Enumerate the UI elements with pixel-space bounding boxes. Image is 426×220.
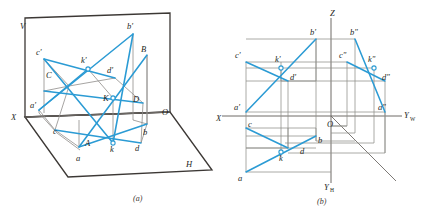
label-b-prime-a: b' [127,21,133,31]
caption-b: (b) [317,197,327,206]
label-b-prime-b: b' [310,27,316,37]
marker-k-prime-b [279,66,283,70]
label-k-prime-a: k' [81,55,87,65]
label-a-b: a [238,173,242,183]
label-b-double-prime-b: b" [350,27,358,37]
label-axis-X-b: X [215,113,222,123]
label-d-prime-b: d' [290,72,296,82]
label-B-a: B [141,44,146,54]
marker-k-prime [86,67,90,71]
label-origin-O-b: O [327,119,333,129]
figure-background [0,0,426,220]
label-axis-X-a: X [10,112,17,122]
label-axis-YW-subscript: W [410,116,416,122]
label-c-b: c [248,119,252,129]
label-A-a: A [84,138,91,148]
label-plane-H: H [185,159,193,169]
label-D-a: D [132,94,140,104]
label-c-prime-a: c' [36,47,42,57]
figure-canvas: V H X O a' b' c' d' k' A B C D K a b c d… [0,0,426,220]
label-b-b: b [318,135,322,145]
label-a-a: a [76,153,80,163]
label-a-double-prime-b: a" [378,102,386,112]
caption-a: (a) [133,194,143,203]
label-origin-O-a: O [162,107,168,117]
label-a-prime-b: a' [234,102,240,112]
label-k-a: k [110,144,114,154]
label-c-a: c [53,126,57,136]
label-k-prime-b: k' [275,54,281,64]
label-d-prime-a: d' [107,65,113,75]
label-k-b: k [279,153,283,163]
label-d-double-prime-b: d" [382,72,390,82]
marker-k-double-prime-b [372,66,376,70]
label-axis-YH-subscript: H [330,187,334,193]
marker-K [111,96,115,100]
label-a-prime-a: a' [30,100,36,110]
label-c-double-prime-b: c" [339,50,347,60]
descriptive-geometry-figure: V H X O a' b' c' d' k' A B C D K a b c d… [0,0,426,220]
label-k-double-prime-b: k" [368,54,376,64]
label-c-prime-b: c' [235,50,241,60]
label-b-a: b [143,127,147,137]
label-C-a: C [46,70,52,80]
label-axis-Z: Z [330,8,335,18]
